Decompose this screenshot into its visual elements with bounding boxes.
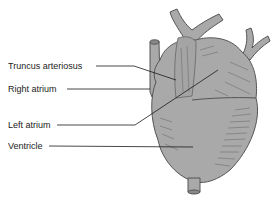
- label-truncus-arteriosus: Truncus arteriosus: [8, 62, 82, 71]
- heart-body: [152, 38, 258, 183]
- truncus-trunk: [175, 37, 196, 98]
- label-ventricle: Ventricle: [8, 142, 43, 151]
- bottom-vessel: [188, 178, 200, 194]
- heart-diagram: Truncus arteriosus Right atrium Left atr…: [0, 0, 275, 209]
- label-left-atrium: Left atrium: [8, 121, 51, 130]
- heart-illustration: [0, 0, 275, 209]
- label-right-atrium: Right atrium: [8, 85, 57, 94]
